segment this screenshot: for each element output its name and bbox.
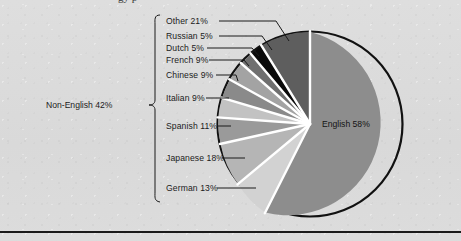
- bottom-rule: [0, 231, 461, 233]
- slice-label-german: German 13%: [166, 183, 218, 193]
- pie-chart: [0, 0, 461, 241]
- slice-label-french: French 9%: [166, 55, 208, 65]
- slice-label-english: English 58%: [322, 119, 370, 129]
- figure-panel: gy p: [0, 0, 461, 241]
- slice-label-chinese: Chinese 9%: [166, 70, 213, 80]
- non-english-brace: [149, 15, 160, 202]
- slice-label-dutch: Dutch 5%: [166, 43, 204, 53]
- non-english-group-label: Non-English 42%: [46, 100, 112, 110]
- slice-label-japanese: Japanese 18%: [166, 153, 224, 163]
- slice-label-russian: Russian 5%: [166, 31, 213, 41]
- slice-label-italian: Italian 9%: [166, 93, 205, 103]
- slice-label-other: Other 21%: [166, 16, 208, 26]
- slice-label-spanish: Spanish 11%: [166, 121, 217, 131]
